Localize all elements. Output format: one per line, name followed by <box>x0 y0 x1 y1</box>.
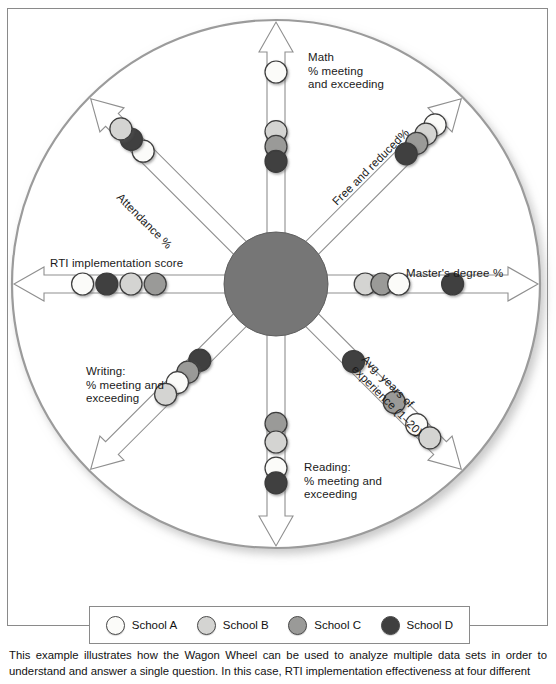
axis-label-line: exceeding <box>86 392 164 406</box>
legend-swatch-circle-icon <box>106 616 125 635</box>
figure-frame: Math% meetingand exceedingFree and reduc… <box>7 8 548 626</box>
axis-label-line: Math <box>308 51 384 65</box>
data-marker-reading-school-b <box>265 431 287 453</box>
legend-label: School D <box>407 619 454 631</box>
legend-swatch-circle-icon <box>288 616 307 635</box>
figure-caption: This example illustrates how the Wagon W… <box>9 648 547 679</box>
axis-label-masters_degree: Master's degree % <box>406 267 503 281</box>
axis-label-rti_implementation_score: RTI implementation score <box>50 257 183 271</box>
chart-legend: School ASchool BSchool CSchool D <box>89 606 470 644</box>
data-marker-attendance-school-b <box>110 118 132 140</box>
legend-label: School A <box>132 619 177 631</box>
data-marker-rti_implementation_score-school-b <box>120 273 142 295</box>
legend-swatch-circle-icon <box>197 616 216 635</box>
wagon-wheel-chart: Math% meetingand exceedingFree and reduc… <box>8 9 549 627</box>
axis-label-line: % meeting and <box>304 475 382 489</box>
axis-label-line: exceeding <box>304 488 382 502</box>
axis-label-line: Writing: <box>86 365 164 379</box>
data-marker-rti_implementation_score-school-d <box>96 273 118 295</box>
legend-label: School C <box>314 619 361 631</box>
legend-swatch-circle-icon <box>381 616 400 635</box>
wheel-graphics <box>8 9 549 627</box>
legend-item-school-b[interactable]: School B <box>197 616 269 635</box>
legend-item-school-a[interactable]: School A <box>106 616 177 635</box>
axis-label-line: Reading: <box>304 461 382 475</box>
data-marker-math-school-a <box>265 61 287 83</box>
axis-label-line: and exceeding <box>308 78 384 92</box>
wheel-hub <box>224 232 328 336</box>
data-marker-rti_implementation_score-school-c <box>144 273 166 295</box>
axis-label-line: % meeting <box>308 65 384 79</box>
legend-label: School B <box>223 619 269 631</box>
data-marker-reading-school-d <box>265 472 287 494</box>
data-marker-math-school-d <box>265 150 287 172</box>
legend-item-school-d[interactable]: School D <box>381 616 454 635</box>
data-marker-rti_implementation_score-school-a <box>72 273 94 295</box>
axis-label-line: RTI implementation score <box>50 257 183 271</box>
axis-label-line: % meeting and <box>86 379 164 393</box>
axis-label-math: Math% meetingand exceeding <box>308 51 384 92</box>
axis-label-writing: Writing:% meeting andexceeding <box>86 365 164 406</box>
axis-label-line: Master's degree % <box>406 267 503 281</box>
legend-item-school-c[interactable]: School C <box>288 616 361 635</box>
axis-label-reading: Reading:% meeting andexceeding <box>304 461 382 502</box>
